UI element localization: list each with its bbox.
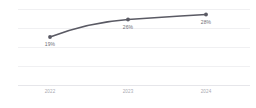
data-label: 19% <box>45 42 55 47</box>
x-tick-label: 2023 <box>123 90 134 95</box>
data-point-marker <box>126 18 130 22</box>
data-point-marker <box>48 35 52 39</box>
line-chart: 19% 26% 28% 2022 2023 2024 <box>0 0 256 108</box>
data-point-marker <box>204 13 208 17</box>
x-tick-label: 2022 <box>45 90 56 95</box>
data-label: 28% <box>201 20 211 25</box>
x-tick-label: 2024 <box>201 90 212 95</box>
data-label: 26% <box>123 25 133 30</box>
plot-area: 19% 26% 28% 2022 2023 2024 <box>0 0 256 108</box>
